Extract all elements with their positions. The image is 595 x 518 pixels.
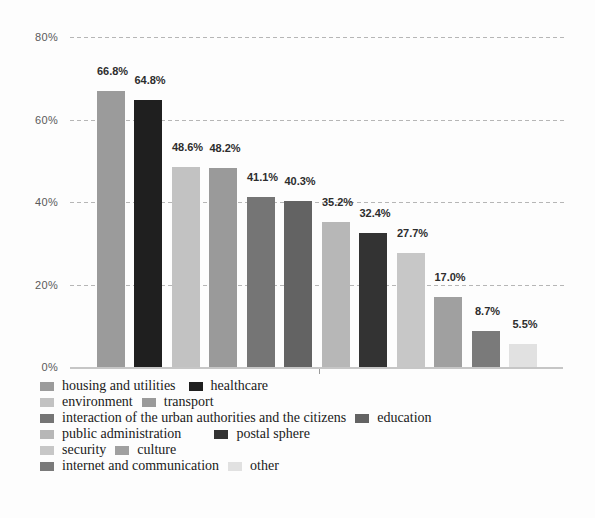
legend-swatch-icon [40, 430, 54, 439]
legend-item-postal-sphere: postal sphere [214, 426, 309, 442]
bar-value-label: 8.7% [466, 305, 510, 318]
legend-label: healthcare [211, 378, 269, 394]
bar-culture [434, 297, 462, 367]
legend-label: environment [62, 394, 133, 410]
bar-transport [209, 168, 237, 367]
legend-row: securityculture [40, 442, 580, 458]
legend-swatch-icon [40, 382, 54, 391]
legend-label: public administration [62, 426, 181, 442]
legend-swatch-icon [142, 398, 156, 407]
legend-item-transport: transport [142, 394, 214, 410]
legend-label: transport [164, 394, 214, 410]
legend-row: internet and communicationother [40, 458, 580, 474]
legend-swatch-icon [40, 462, 54, 471]
bar-value-label: 32.4% [353, 207, 397, 220]
bar-internet-and-communication [472, 331, 500, 367]
legend-item-internet-and-communication: internet and communication [40, 458, 219, 474]
x-axis-tick [319, 369, 320, 374]
y-tick-label: 40% [24, 195, 58, 209]
legend-swatch-icon [115, 446, 129, 455]
y-tick-label: 80% [24, 30, 58, 44]
y-tick-label: 0% [24, 360, 58, 374]
legend-swatch-icon [355, 414, 369, 423]
legend-label: internet and communication [62, 458, 219, 474]
legend-label: housing and utilities [62, 378, 176, 394]
bar-postal-sphere [359, 233, 387, 367]
y-tick-label: 20% [24, 278, 58, 292]
legend-label: postal sphere [236, 426, 309, 442]
legend-item-housing-and-utilities: housing and utilities [40, 378, 176, 394]
legend-swatch-icon [214, 430, 228, 439]
legend-swatch-icon [40, 398, 54, 407]
x-axis-baseline [70, 367, 563, 369]
chart-legend: housing and utilitieshealthcareenvironme… [40, 378, 580, 474]
bar-value-label: 17.0% [428, 271, 472, 284]
bar-public-administration [322, 222, 350, 367]
bar-healthcare [134, 100, 162, 367]
legend-swatch-icon [228, 462, 242, 471]
legend-item-environment: environment [40, 394, 133, 410]
bar-chart: 80%60%40%20%0%66.8%64.8%48.6%48.2%41.1%4… [0, 0, 595, 518]
legend-label: other [250, 458, 279, 474]
legend-item-education: education [355, 410, 431, 426]
bar-value-label: 64.8% [128, 74, 172, 87]
legend-item-security: security [40, 442, 106, 458]
bar-housing-and-utilities [97, 91, 125, 367]
legend-label: education [377, 410, 431, 426]
bar-security [397, 253, 425, 367]
legend-label: culture [137, 442, 176, 458]
bar-value-label: 40.3% [278, 175, 322, 188]
legend-item-other: other [228, 458, 279, 474]
legend-row: public administrationpostal sphere [40, 426, 580, 442]
plot-area: 80%60%40%20%0%66.8%64.8%48.6%48.2%41.1%4… [0, 0, 595, 378]
legend-row: environmenttransport [40, 394, 580, 410]
y-tick-label: 60% [24, 113, 58, 127]
legend-item-culture: culture [115, 442, 176, 458]
legend-label: security [62, 442, 106, 458]
bar-value-label: 27.7% [391, 227, 435, 240]
legend-label: interaction of the urban authorities and… [62, 410, 346, 426]
bar-value-label: 5.5% [503, 318, 547, 331]
bar-interaction-of-the-urban-authorities-and-the-citizens [247, 197, 275, 367]
legend-item-public-administration: public administration [40, 426, 181, 442]
bar-education [284, 201, 312, 367]
bar-other [509, 344, 537, 367]
legend-swatch-icon [40, 414, 54, 423]
legend-swatch-icon [189, 382, 203, 391]
legend-row: interaction of the urban authorities and… [40, 410, 580, 426]
bar-value-label: 48.2% [203, 142, 247, 155]
gridline-80 [70, 37, 566, 38]
bar-environment [172, 167, 200, 367]
legend-item-interaction-of-the-urban-authorities-and-the-citizens: interaction of the urban authorities and… [40, 410, 346, 426]
legend-item-healthcare: healthcare [189, 378, 269, 394]
legend-row: housing and utilitieshealthcare [40, 378, 580, 394]
legend-swatch-icon [40, 446, 54, 455]
